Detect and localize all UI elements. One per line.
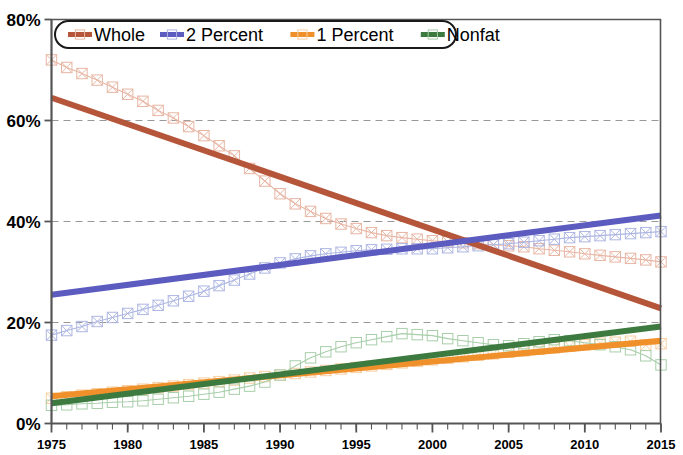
x-tick-label: 2000 — [418, 437, 447, 452]
x-tick-label: 1995 — [342, 437, 371, 452]
legend-label: 1 Percent — [316, 25, 393, 45]
x-tick-label: 1980 — [113, 437, 142, 452]
x-tick-label: 1985 — [189, 437, 218, 452]
x-tick-label: 1975 — [37, 437, 66, 452]
y-tick-label: 0% — [16, 415, 41, 434]
y-tick-label: 60% — [6, 112, 40, 131]
x-tick-label: 1990 — [266, 437, 295, 452]
legend-label: 2 Percent — [186, 25, 263, 45]
legend-label: Whole — [94, 25, 145, 45]
x-axis-tick-labels: 197519801985199019952000200520102015 — [37, 437, 675, 452]
y-tick-label: 20% — [6, 314, 40, 333]
chart-legend: Whole2 Percent1 PercentNonfat — [55, 21, 500, 48]
milk-consumption-line-chart: 0%20%40%60%80% 1975198019851990199520002… — [0, 0, 683, 455]
y-tick-label: 40% — [6, 213, 40, 232]
x-tick-label: 2010 — [570, 437, 599, 452]
chart-container: 0%20%40%60%80% 1975198019851990199520002… — [0, 0, 683, 455]
legend-label: Nonfat — [447, 25, 500, 45]
y-tick-label: 80% — [6, 11, 40, 30]
x-tick-label: 2015 — [647, 437, 676, 452]
x-tick-label: 2005 — [494, 437, 523, 452]
